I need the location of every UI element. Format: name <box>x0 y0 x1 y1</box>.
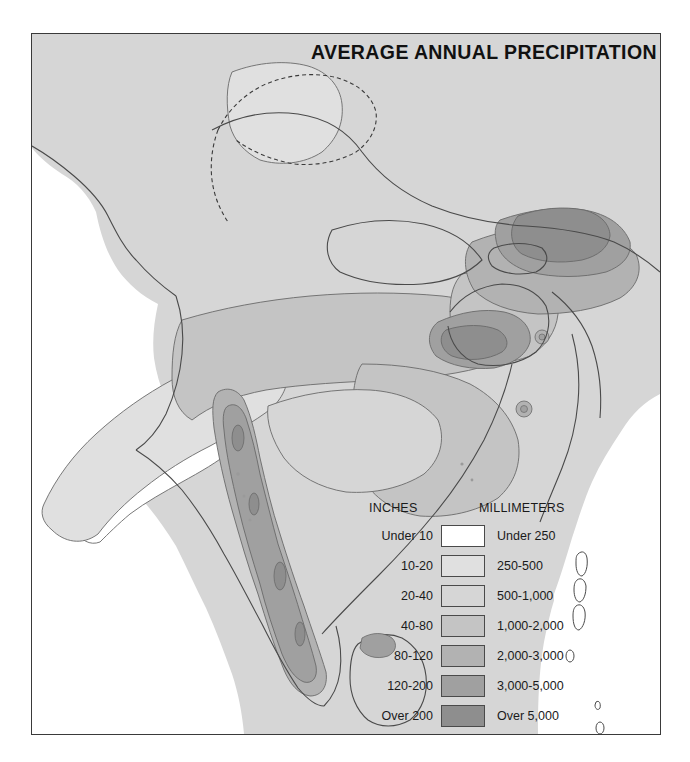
nicobar-island-south <box>596 722 604 734</box>
legend-swatch <box>441 525 485 547</box>
legend-inches-label: Under 10 <box>367 529 433 543</box>
map-page: AVERAGE ANNUAL PRECIPITATION INCHES MILL… <box>0 0 690 762</box>
legend-millimeters-label: 3,000-5,000 <box>497 679 564 693</box>
legend-inches-label: 20-40 <box>367 589 433 603</box>
legend-heading-millimeters: MILLIMETERS <box>479 501 565 515</box>
band-over-200-arunachal <box>512 208 610 262</box>
legend-row: 80-120 2,000-3,000 <box>367 643 597 673</box>
legend-row: 120-200 3,000-5,000 <box>367 673 597 703</box>
map-legend: INCHES MILLIMETERS Under 10 Under 250 10… <box>367 501 597 733</box>
ne-inlier-1-core <box>539 334 545 340</box>
page-title: AVERAGE ANNUAL PRECIPITATION <box>311 41 649 64</box>
legend-swatch <box>441 585 485 607</box>
speck-2 <box>243 495 246 498</box>
legend-swatch <box>441 675 485 697</box>
legend-row: Over 200 Over 5,000 <box>367 703 597 733</box>
legend-inches-label: 40-80 <box>367 619 433 633</box>
legend-swatch <box>441 615 485 637</box>
legend-row: 10-20 250-500 <box>367 553 597 583</box>
legend-millimeters-label: 500-1,000 <box>497 589 553 603</box>
map-frame: AVERAGE ANNUAL PRECIPITATION INCHES MILL… <box>31 33 661 735</box>
ghats-core-4 <box>295 622 305 646</box>
legend-inches-label: 80-120 <box>367 649 433 663</box>
legend-inches-label: 120-200 <box>367 679 433 693</box>
legend-row: 40-80 1,000-2,000 <box>367 613 597 643</box>
ne-inlier-2-core <box>521 406 528 413</box>
ghats-core-3 <box>274 562 286 590</box>
legend-headings: INCHES MILLIMETERS <box>367 501 597 523</box>
speck-5 <box>471 479 474 482</box>
legend-row: Under 10 Under 250 <box>367 523 597 553</box>
legend-millimeters-label: 2,000-3,000 <box>497 649 564 663</box>
speck-4 <box>460 462 463 465</box>
legend-inches-label: 10-20 <box>367 559 433 573</box>
legend-millimeters-label: Under 250 <box>497 529 555 543</box>
ghats-core-1 <box>232 425 244 451</box>
speck-1 <box>236 472 240 476</box>
ghats-core-2 <box>249 493 259 515</box>
legend-swatch <box>441 555 485 577</box>
legend-heading-inches: INCHES <box>369 501 417 515</box>
legend-millimeters-label: 250-500 <box>497 559 543 573</box>
legend-millimeters-label: Over 5,000 <box>497 709 559 723</box>
band-over-200-meghalaya <box>441 326 507 360</box>
legend-millimeters-label: 1,000-2,000 <box>497 619 564 633</box>
legend-row: 20-40 500-1,000 <box>367 583 597 613</box>
legend-swatch <box>441 705 485 727</box>
legend-inches-label: Over 200 <box>367 709 433 723</box>
speck-3 <box>248 518 251 521</box>
legend-swatch <box>441 645 485 667</box>
